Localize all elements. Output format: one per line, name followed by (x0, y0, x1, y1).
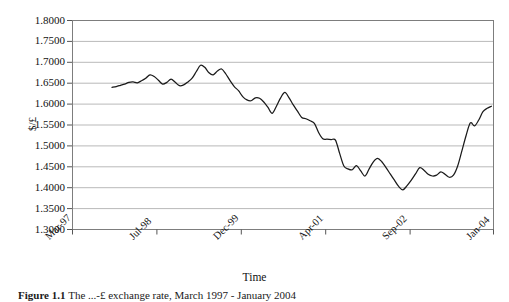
x-tick-label: Jul-98 (127, 215, 153, 241)
figure-caption-text: The ...-£ exchange rate, March 1997 - Ja… (68, 289, 296, 301)
x-tick-label: Sep-02 (380, 213, 409, 242)
x-axis-title: Time (0, 271, 509, 283)
figure-caption: Figure 1.1 The ...-£ exchange rate, Marc… (18, 289, 488, 302)
y-axis-title: $/£ (12, 94, 52, 154)
x-tick-label: Mar-97 (43, 212, 73, 242)
figure-caption-label: Figure 1.1 (18, 289, 65, 301)
x-tick-label: Dec-99 (211, 212, 241, 242)
x-tick-label: Apr-01 (296, 213, 325, 242)
x-tick-label: Jan-04 (464, 214, 492, 242)
